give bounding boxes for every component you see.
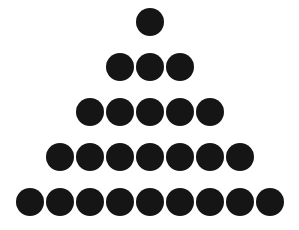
dot-marker-icon xyxy=(76,188,104,216)
dot-marker-icon xyxy=(196,143,224,171)
dot-marker-icon xyxy=(46,143,74,171)
dot-marker-icon xyxy=(106,53,134,81)
dot-marker-icon xyxy=(166,143,194,171)
dot-marker-icon xyxy=(136,143,164,171)
dot-marker-icon xyxy=(166,53,194,81)
dot-marker-icon xyxy=(196,98,224,126)
dot-marker-icon xyxy=(106,98,134,126)
dot-marker-icon xyxy=(76,98,104,126)
dot-marker-icon xyxy=(166,98,194,126)
dot-marker-icon xyxy=(136,98,164,126)
dot-marker-icon xyxy=(166,188,194,216)
dot-marker-icon xyxy=(136,53,164,81)
dot-row xyxy=(0,8,299,36)
dot-marker-icon xyxy=(106,188,134,216)
dot-marker-icon xyxy=(136,188,164,216)
dot-marker-icon xyxy=(226,188,254,216)
dot-marker-icon xyxy=(46,188,74,216)
dot-triangle-canvas xyxy=(0,0,299,230)
dot-marker-icon xyxy=(76,143,104,171)
dot-marker-icon xyxy=(196,188,224,216)
dot-marker-icon xyxy=(16,188,44,216)
dot-marker-icon xyxy=(136,8,164,36)
dot-row xyxy=(0,143,299,171)
dot-marker-icon xyxy=(256,188,284,216)
dot-row xyxy=(0,188,299,216)
dot-row xyxy=(0,98,299,126)
dot-marker-icon xyxy=(226,143,254,171)
dot-row xyxy=(0,53,299,81)
dot-marker-icon xyxy=(106,143,134,171)
